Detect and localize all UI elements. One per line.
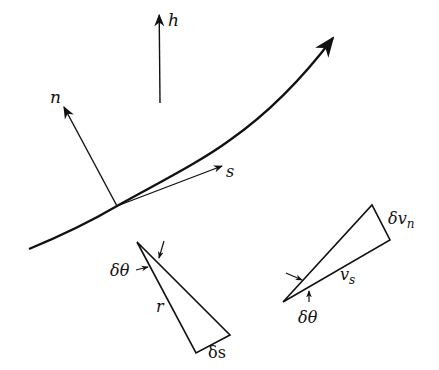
geometry-triangle: δθ r δs xyxy=(110,241,230,362)
s-arrow xyxy=(117,166,222,206)
vector-s: s xyxy=(117,162,234,206)
vs-sub: s xyxy=(349,273,355,287)
angle-arrow-right xyxy=(159,241,164,258)
natural-coordinates-diagram: h n s δθ r δs δvn vs δθ xyxy=(0,0,439,370)
angle-arrow-left xyxy=(136,267,148,270)
delta-vn-label: δvn xyxy=(388,209,414,231)
delta-theta-label-left: δθ xyxy=(110,261,130,280)
vs-main: v xyxy=(340,265,349,284)
velocity-triangle: δvn vs δθ xyxy=(283,205,414,327)
delta-s-label: δs xyxy=(208,343,226,362)
n-label: n xyxy=(50,87,61,107)
h-label: h xyxy=(168,10,179,30)
r-label: r xyxy=(156,297,165,316)
geometry-triangle-shape xyxy=(137,242,230,353)
vector-h: h xyxy=(159,10,179,103)
streamline-curve xyxy=(29,38,333,249)
velocity-triangle-shape xyxy=(283,205,390,302)
delta-vn-sub: n xyxy=(407,217,415,231)
s-label: s xyxy=(226,162,234,181)
delta-theta-label-right: δθ xyxy=(298,308,318,327)
n-arrow xyxy=(64,107,117,206)
delta-vn-main: δv xyxy=(388,209,407,228)
angle-arrow-top xyxy=(286,273,302,280)
vs-label: vs xyxy=(340,265,355,287)
h-arrow xyxy=(159,15,160,103)
vector-n: n xyxy=(50,87,117,206)
